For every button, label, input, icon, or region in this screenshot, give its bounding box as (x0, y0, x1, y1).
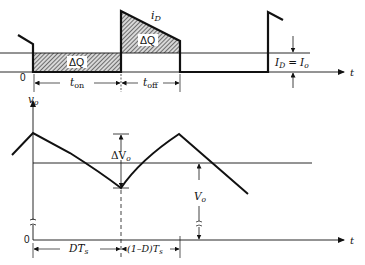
delta-q-label-off: ΔQ (140, 34, 155, 46)
id-label: iD (151, 9, 162, 23)
delta-q-label-on: ΔQ (69, 56, 84, 68)
dts-label: DTs (68, 242, 88, 256)
vo-axis-label: vo (28, 93, 39, 107)
t-off-label: toff (143, 76, 159, 90)
ton-toff-dimension: ton toff (34, 74, 180, 92)
lower-t-label: t (350, 235, 355, 246)
lower-plot: vo t 0 ΔVo Vo DTs (1–D) (12, 93, 355, 258)
output-voltage-waveform (12, 133, 248, 194)
period-dimension: DTs (1–D)Ts (33, 236, 180, 258)
upper-origin-label: 0 (20, 72, 26, 83)
upper-plot: ΔQ ΔQ iD 0 t ID=Io ton toff (0, 9, 355, 92)
lower-origin-label: 0 (24, 234, 30, 245)
t-on-label: ton (70, 76, 84, 90)
vo-average-label: Vo (194, 190, 207, 204)
one-minus-d-ts-label: (1–D)Ts (127, 243, 163, 256)
delta-vo-label: ΔVo (111, 149, 131, 163)
upper-t-label: t (350, 67, 355, 78)
id-equals-io-label: ID=Io (274, 56, 309, 70)
waveform-figure: ΔQ ΔQ iD 0 t ID=Io ton toff vo (0, 0, 365, 265)
diagram-canvas: ΔQ ΔQ iD 0 t ID=Io ton toff vo (0, 0, 365, 265)
